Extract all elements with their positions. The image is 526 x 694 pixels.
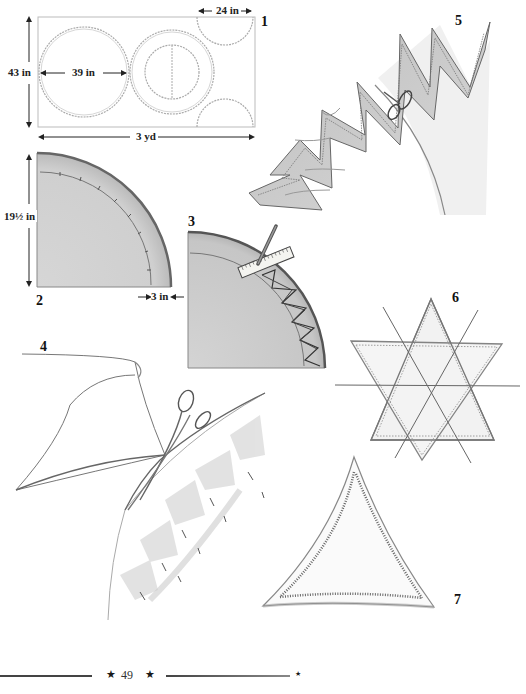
footer-rule-left [0, 675, 92, 677]
page-number: 49 [121, 668, 133, 683]
star-icon: ★ [145, 668, 155, 681]
star-icon: ★ [106, 668, 116, 681]
star-icon: ★ [295, 670, 301, 678]
figure-7-drawing [0, 0, 526, 694]
footer-rule-right [166, 675, 290, 677]
figure-7-label: 7 [454, 592, 461, 608]
